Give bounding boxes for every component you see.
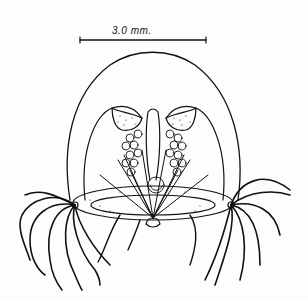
medusa-illustration: 3.0 mm. — [0, 0, 308, 300]
medusa-drawing — [0, 0, 308, 300]
tentacles-right — [205, 179, 290, 285]
tentacles-left — [20, 192, 110, 290]
bell-outline — [67, 52, 240, 200]
radial-canals — [100, 150, 208, 218]
manubrium — [146, 109, 159, 180]
scale-bar — [80, 37, 206, 43]
gonad-right — [166, 108, 196, 130]
mouth — [146, 218, 160, 227]
gonad-cluster — [122, 130, 186, 193]
gonad-left — [112, 108, 142, 130]
